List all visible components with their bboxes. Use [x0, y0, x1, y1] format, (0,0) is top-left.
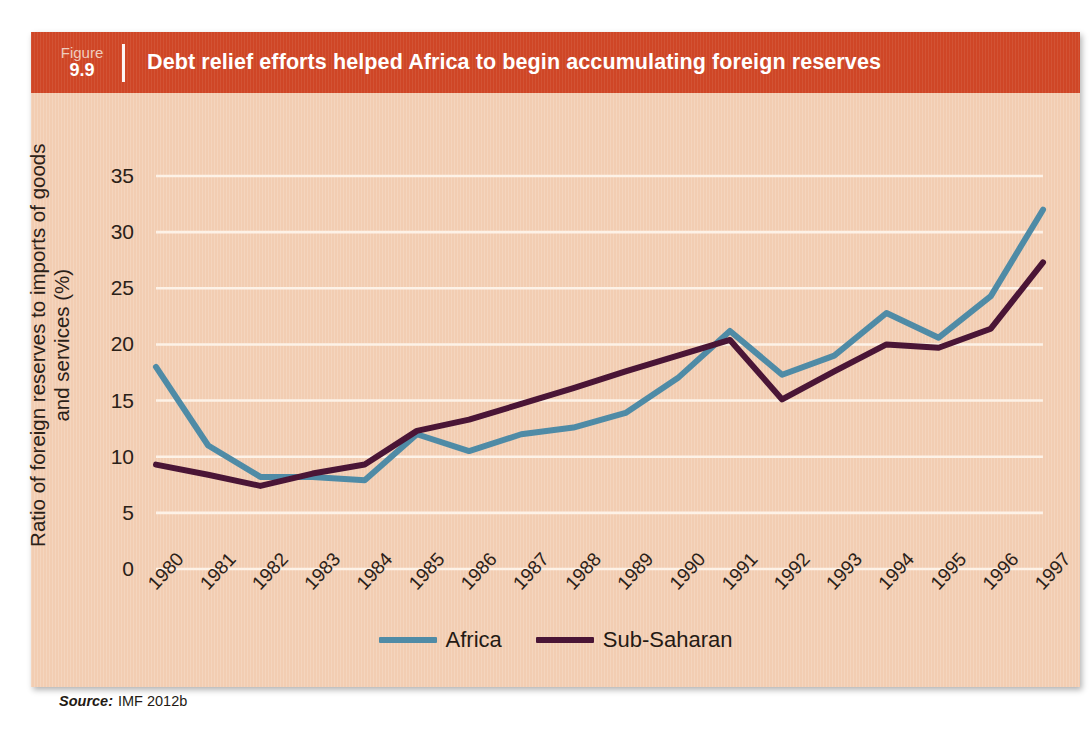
series-line-sub-saharan — [156, 262, 1043, 485]
legend-swatch-icon — [536, 637, 594, 643]
y-tick-label: 20 — [111, 332, 134, 355]
x-tick-label: 1992 — [770, 548, 814, 593]
x-tick-label: 1996 — [978, 548, 1022, 593]
source-note: Source:IMF 2012b — [59, 693, 187, 709]
x-tick-label: 1993 — [822, 548, 866, 593]
x-tick-label: 1988 — [561, 548, 605, 593]
y-tick-label: 5 — [122, 501, 134, 524]
line-chart: 05101520253035 1980198119821983198419851… — [31, 93, 1080, 623]
figure-label: Figure — [46, 45, 118, 61]
x-tick-label: 1987 — [509, 548, 553, 593]
x-tick-label: 1982 — [248, 548, 292, 593]
legend-item-africa[interactable]: Africa — [379, 627, 502, 653]
x-tick-label: 1986 — [457, 548, 501, 593]
chart-legend: AfricaSub-Saharan — [31, 627, 1080, 653]
x-tick-label: 1980 — [144, 548, 188, 593]
figure-container: Figure 9.9 Debt relief efforts helped Af… — [31, 32, 1089, 704]
series-lines — [156, 210, 1043, 486]
y-tick-label: 25 — [111, 276, 134, 299]
y-tick-labels: 05101520253035 — [111, 164, 134, 580]
x-tick-label: 1983 — [300, 548, 344, 593]
legend-label: Africa — [446, 627, 502, 653]
x-tick-label: 1981 — [196, 548, 240, 593]
x-tick-label: 1984 — [352, 548, 396, 594]
y-tick-label: 15 — [111, 389, 134, 412]
legend-label: Sub-Saharan — [603, 627, 733, 653]
gridlines — [156, 176, 1043, 569]
x-tick-label: 1989 — [613, 548, 657, 593]
x-tick-label: 1990 — [665, 548, 709, 593]
x-tick-label: 1985 — [404, 548, 448, 593]
x-tick-label: 1991 — [718, 548, 762, 593]
y-tick-label: 0 — [122, 557, 134, 580]
y-tick-label: 30 — [111, 220, 134, 243]
figure-title-banner: Figure 9.9 Debt relief efforts helped Af… — [31, 32, 1080, 93]
source-text: IMF 2012b — [118, 693, 187, 709]
legend-swatch-icon — [379, 637, 437, 643]
x-tick-label: 1994 — [874, 548, 918, 594]
plot-area: Ratio of foreign reserves to imports of … — [31, 93, 1080, 687]
banner-divider — [122, 44, 125, 82]
y-tick-label: 10 — [111, 445, 134, 468]
x-tick-label: 1997 — [1031, 548, 1075, 593]
source-label: Source: — [59, 693, 113, 709]
x-tick-labels: 1980198119821983198419851986198719881989… — [144, 548, 1075, 594]
legend-item-sub-saharan[interactable]: Sub-Saharan — [536, 627, 733, 653]
y-tick-label: 35 — [111, 164, 134, 187]
figure-number-block: Figure 9.9 — [46, 45, 118, 79]
figure-title: Debt relief efforts helped Africa to beg… — [147, 50, 881, 75]
x-tick-label: 1995 — [926, 548, 970, 593]
figure-number: 9.9 — [46, 61, 118, 80]
